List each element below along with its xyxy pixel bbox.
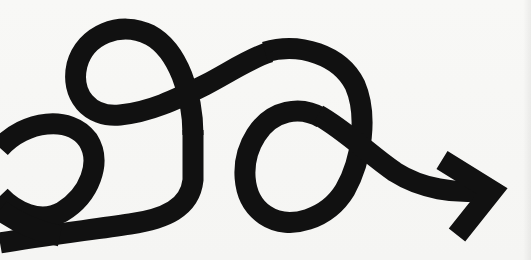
image-canvas bbox=[0, 0, 531, 260]
top-loop-stroke bbox=[76, 29, 270, 135]
left-circle-stroke bbox=[0, 124, 94, 217]
page-edge-shadow bbox=[523, 0, 531, 260]
looping-arrow-graphic bbox=[0, 0, 531, 260]
